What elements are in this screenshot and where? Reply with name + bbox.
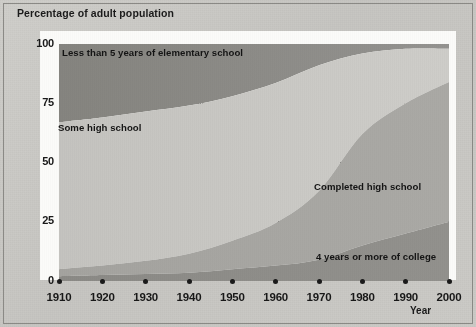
y-tick-75: 75 (20, 96, 54, 108)
x-axis-dot-1980 (360, 279, 365, 284)
x-tick-1990: 1990 (393, 291, 418, 303)
x-axis-dot-1910 (57, 279, 62, 284)
plot-area (59, 44, 449, 281)
x-tick-1980: 1980 (350, 291, 375, 303)
band-label-less-than-5-years-elementary: Less than 5 years of elementary school (62, 47, 243, 58)
x-axis-dot-1970 (317, 279, 322, 284)
x-tick-1940: 1940 (177, 291, 202, 303)
stacked-area-svg (59, 44, 449, 281)
x-axis-dot-1940 (187, 279, 192, 284)
y-tick-25: 25 (20, 214, 54, 226)
x-axis-dot-1960 (273, 279, 278, 284)
x-axis-title: Year (410, 305, 431, 316)
x-tick-1920: 1920 (90, 291, 115, 303)
x-tick-1970: 1970 (307, 291, 332, 303)
y-tick-50: 50 (20, 155, 54, 167)
x-tick-1910: 1910 (47, 291, 72, 303)
figure-area-chart: Percentage of adult population 100 75 50… (0, 0, 476, 327)
x-axis-dot-1950 (230, 279, 235, 284)
band-label-completed-high-school: Completed high school (314, 181, 421, 192)
y-tick-0: 0 (20, 274, 54, 286)
x-axis-dot-1930 (143, 279, 148, 284)
x-axis-dot-1920 (100, 279, 105, 284)
band-label-some-high-school: Some high school (58, 122, 141, 133)
x-tick-1960: 1960 (263, 291, 288, 303)
band-label-4-years-or-more-college: 4 years or more of college (316, 251, 436, 262)
x-axis-dot-1990 (403, 279, 408, 284)
x-tick-1950: 1950 (220, 291, 245, 303)
y-tick-100: 100 (20, 37, 54, 49)
y-axis-ticks: 100 75 50 25 0 (0, 0, 54, 327)
x-axis-dot-2000 (447, 279, 452, 284)
x-tick-2000: 2000 (437, 291, 462, 303)
x-tick-1930: 1930 (133, 291, 158, 303)
